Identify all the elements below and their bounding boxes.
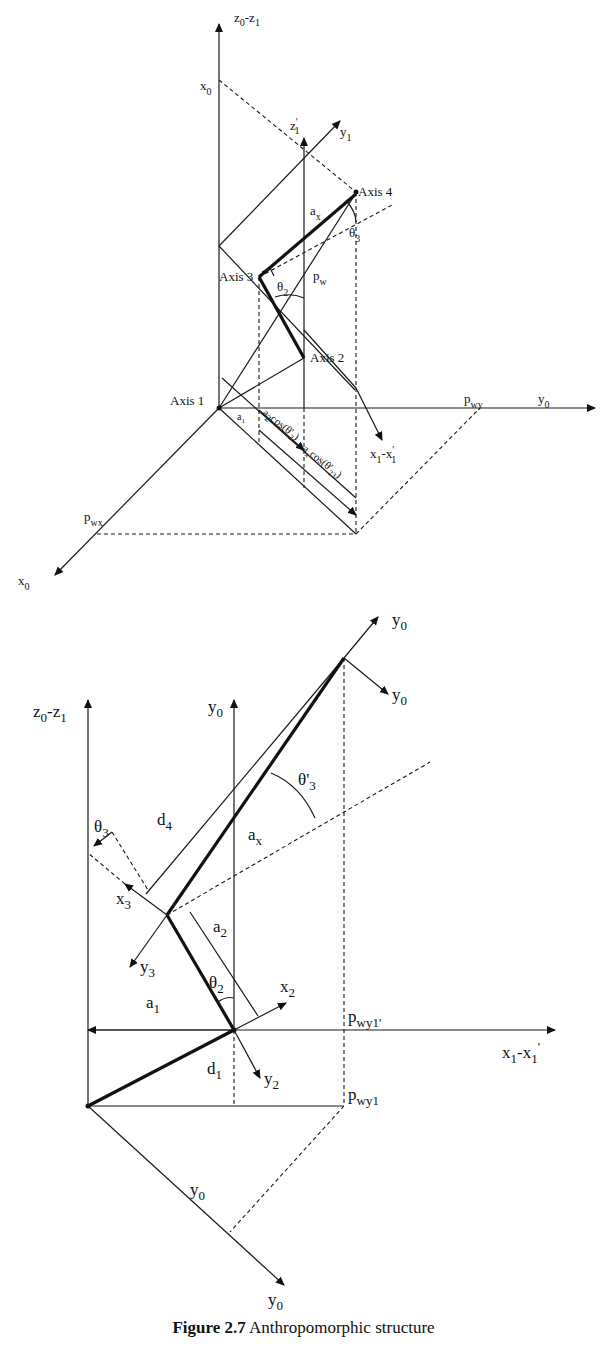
axis1-joint — [217, 406, 222, 411]
x3-extension — [88, 853, 125, 884]
z1-prime-label: z'1 — [290, 116, 300, 136]
axis3-label: Axis 3 — [219, 269, 253, 284]
pw-label: pw — [313, 268, 328, 287]
y0-top-label-b: y0 — [392, 685, 407, 708]
theta2-arc-bottom — [218, 998, 234, 1003]
pw-vector — [219, 196, 354, 408]
axis1-label: Axis 1 — [170, 393, 204, 408]
x0-lower-label: x0 — [18, 573, 30, 592]
link-ax-bottom — [167, 658, 344, 915]
axis2-label: Axis 2 — [310, 350, 344, 365]
y1-label: y1 — [340, 124, 352, 143]
y0-bottom-label: y0 — [268, 1290, 283, 1313]
anthropomorphic-structure-figure: z0-z1 x0 z'1 y1 Axis 4 ax θ3 Axis 3 θ2 p… — [0, 0, 607, 1346]
x1-x1prime-label-top: x1-x'1 — [370, 444, 396, 465]
bottom-planar-diagram: z0-z1 y0 y0 y0 θ'3 θ3 d4 ax x3 a2 y3 θ2 … — [33, 610, 555, 1313]
a1-small-label: a1 — [237, 411, 245, 425]
theta3-box-side — [112, 832, 148, 890]
x0-upper-label: x0 — [200, 78, 212, 97]
figure-caption: Figure 2.7 Anthropomorphic structure — [0, 1318, 607, 1338]
x2-axis — [234, 1003, 286, 1030]
z0-z1-label: z0-z1 — [234, 10, 260, 28]
theta2-label-top: θ2 — [277, 279, 288, 298]
pwy1-label: pwy1 — [348, 1085, 379, 1108]
axcos-label: axcos(θ'23) — [299, 442, 345, 482]
d4-label: d4 — [157, 810, 173, 833]
x1-x1prime-axis — [356, 388, 382, 440]
a2cos-label: a2cos(θ'2) — [259, 406, 302, 445]
pwy-projection — [356, 408, 480, 534]
axis4-label: Axis 4 — [358, 184, 393, 199]
joint-2 — [232, 1028, 237, 1033]
y0-top-label-a: y0 — [392, 610, 407, 633]
y0-lower-diagonal — [88, 1106, 284, 1285]
y3-label: y3 — [140, 957, 155, 980]
figure-number: Figure 2.7 — [172, 1318, 245, 1337]
d4-line — [146, 658, 344, 894]
x1-x1prime-label-bottom: x1-x1' — [502, 1039, 540, 1066]
y0-top-arrow-b — [344, 658, 388, 694]
top-3d-diagram: z0-z1 x0 z'1 y1 Axis 4 ax θ3 Axis 3 θ2 p… — [18, 10, 595, 592]
y0-top-arrow-a — [344, 617, 378, 658]
y0-vertical-label: y0 — [208, 697, 223, 720]
z0-z1-label-bottom: z0-z1 — [33, 702, 67, 725]
pwy1-prime-label: pwy1' — [348, 1007, 381, 1030]
x2-label: x2 — [280, 977, 295, 1000]
a1-label: a1 — [146, 993, 160, 1016]
x3-label: x3 — [116, 889, 131, 912]
ax-label-bottom: ax — [248, 825, 263, 848]
x3-axis — [125, 884, 167, 915]
figure-title: Anthropomorphic structure — [246, 1318, 435, 1337]
y3-axis — [130, 915, 167, 967]
link-1 — [219, 358, 304, 408]
d1-label: d1 — [207, 1059, 222, 1082]
base-joint — [86, 1104, 91, 1109]
y1-axis — [219, 121, 340, 246]
y2-axis — [234, 1030, 260, 1078]
pwy-label: pwy — [464, 391, 483, 410]
x0-axis — [55, 408, 219, 575]
y0-label-top: y0 — [538, 391, 550, 410]
a2-label: a2 — [213, 917, 227, 940]
pwy1-projection — [230, 1106, 344, 1232]
y0-diagonal-label: y0 — [190, 1180, 205, 1203]
theta3-prime-label-top: θ3 — [349, 225, 360, 244]
ax-label-top: ax — [310, 203, 321, 222]
link-ax — [259, 194, 356, 277]
theta3-label: θ3 — [94, 817, 109, 840]
y2-label: y2 — [264, 1069, 279, 1092]
theta3-prime-label: θ'3 — [298, 770, 316, 793]
pwx-label: pwx — [84, 509, 103, 528]
